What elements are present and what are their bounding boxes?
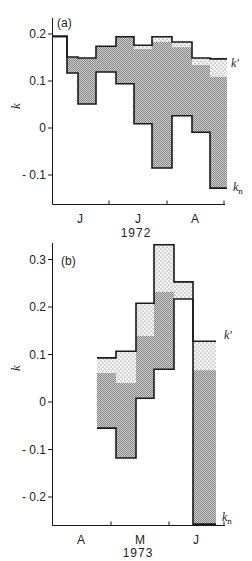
- dotted-band: [174, 282, 193, 299]
- panel-a-month-1: J: [77, 212, 83, 226]
- y-tick-label: 0: [39, 121, 46, 135]
- grey-band: [116, 383, 136, 458]
- panel-b-kn-sub: n: [227, 516, 232, 526]
- dotted-band: [154, 245, 174, 292]
- panel-a-year: 1972: [121, 226, 152, 240]
- grey-band: [154, 292, 174, 369]
- grey-band: [116, 37, 134, 84]
- dotted-band: [116, 351, 136, 383]
- y-tick-label: 0.2: [29, 300, 46, 314]
- grey-band: [172, 47, 192, 116]
- panel-b-label: (b): [61, 254, 76, 268]
- y-tick-label: 0.1: [29, 74, 46, 88]
- panel-a-label: (a): [57, 16, 72, 30]
- y-tick-label: 0: [39, 395, 46, 409]
- panel-b-y-axis-label: k: [8, 365, 23, 371]
- dotted-band: [136, 303, 154, 336]
- grey-band: [134, 49, 152, 124]
- panel-a-kn-label: kn: [233, 180, 243, 196]
- grey-band: [97, 373, 116, 428]
- grey-band: [96, 46, 116, 72]
- grey-band: [192, 65, 210, 132]
- panel-a-chart: 0.20.10- 0.1 (a) k J J A 1972 k' kn: [8, 16, 243, 240]
- panel-b-k-prime-label: k': [224, 328, 232, 342]
- panel-a-x-ticks: [109, 201, 224, 205]
- grey-band: [152, 42, 172, 168]
- grey-band: [78, 58, 96, 104]
- panel-b-y-ticks: 0.30.20.10- 0.1- 0.2: [22, 253, 53, 505]
- panel-b-bands: [97, 245, 216, 524]
- y-tick-label: 0.3: [29, 253, 46, 267]
- panel-b-kn-label: kn: [222, 510, 232, 526]
- panel-a-month-3: A: [191, 212, 199, 226]
- grey-band: [67, 57, 78, 73]
- y-tick-label: - 0.1: [22, 443, 46, 457]
- panel-a-month-2: J: [135, 212, 141, 226]
- grey-band: [210, 77, 227, 188]
- panel-b-month-2: M: [135, 533, 145, 547]
- panel-b-month-3: J: [193, 533, 199, 547]
- dotted-band: [193, 341, 216, 370]
- grey-band: [136, 336, 154, 398]
- panel-a-y-axis-label: k: [8, 103, 23, 109]
- y-tick-label: 0.1: [29, 348, 46, 362]
- panel-b-month-1: A: [77, 533, 85, 547]
- grey-band: [193, 370, 216, 524]
- panel-b-chart: 0.30.20.10- 0.1- 0.2 (b) k A M J 1973 k'…: [8, 243, 232, 560]
- dotted-band: [192, 58, 210, 65]
- dotted-band: [210, 59, 227, 77]
- figure: 0.20.10- 0.1 (a) k J J A 1972 k' kn 0.30…: [0, 0, 252, 561]
- panel-a-kn-sub: n: [238, 186, 243, 196]
- dotted-band: [97, 358, 116, 373]
- y-tick-label: - 0.1: [22, 168, 46, 182]
- y-tick-label: 0.2: [29, 27, 46, 41]
- y-tick-label: - 0.2: [22, 490, 46, 504]
- panel-a-bands: [67, 37, 227, 188]
- panel-b-year: 1973: [123, 546, 154, 560]
- panel-a-y-ticks: 0.20.10- 0.1: [22, 27, 53, 182]
- panel-a-k-prime-label: k': [231, 56, 239, 70]
